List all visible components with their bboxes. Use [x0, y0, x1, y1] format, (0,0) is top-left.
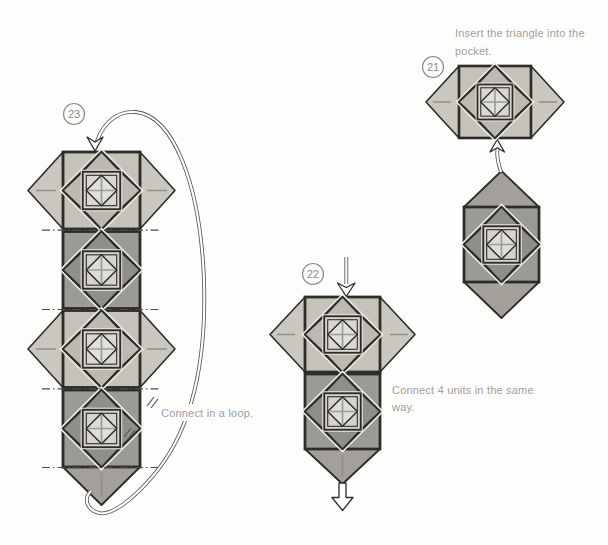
bottom-wing-triangle	[464, 282, 539, 318]
step-22-number: 22	[307, 268, 319, 280]
step-21-instruction-line2: pocket.	[455, 45, 492, 57]
origami-instruction-diagram: 23	[0, 0, 608, 545]
step-22-instruction-line2: way.	[391, 401, 415, 413]
unit-light-1	[28, 152, 175, 229]
unit-face-pattern	[305, 297, 380, 372]
unit-dark-1	[63, 232, 140, 309]
unit-light	[270, 297, 415, 372]
loop-arrowhead	[87, 137, 103, 151]
step-21-instruction-line1: Insert the triangle into the	[455, 27, 585, 39]
unit-face-pattern	[464, 207, 539, 282]
unit-face-pattern	[63, 311, 140, 388]
unit-face-pattern	[63, 152, 140, 229]
unit-face-pattern	[63, 232, 140, 309]
step-21: Insert the triangle into the pocket. 21	[423, 27, 585, 318]
unit-dark-2	[63, 390, 140, 505]
unit-face-pattern	[63, 390, 140, 467]
step-21-number: 21	[427, 61, 439, 73]
unit-dark-vertical	[464, 171, 539, 318]
step-23-instruction: Connect in a loop.	[161, 407, 253, 419]
hollow-down-arrow-icon	[332, 483, 353, 511]
step-23: 23	[28, 104, 259, 514]
unit-face-pattern	[459, 66, 531, 138]
top-wing-triangle	[464, 171, 539, 207]
down-arrowhead	[338, 283, 356, 297]
unit-light-pocket	[426, 66, 564, 138]
step-23-number: 23	[68, 108, 80, 120]
unit-light-2	[28, 311, 175, 388]
step-22-instruction-line1: Connect 4 units in the same	[392, 384, 534, 396]
unit-dark	[305, 374, 380, 484]
double-line-down-arrow-icon	[338, 256, 356, 297]
unit-face-pattern	[305, 374, 380, 449]
hollow-up-arrow-icon	[490, 140, 505, 173]
